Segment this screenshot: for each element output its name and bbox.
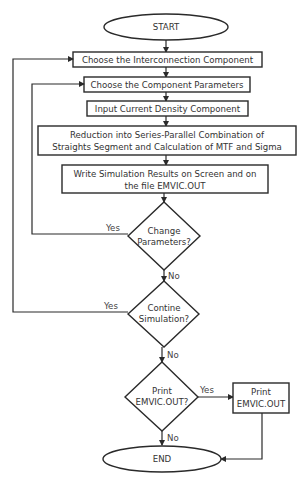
decision2-text-line2: Simulation? bbox=[139, 314, 189, 324]
step-choose-interconnection: Choose the Interconnection Component bbox=[73, 52, 262, 67]
print-box-text-line2: EMVIC.OUT bbox=[237, 399, 286, 409]
decision3-no-label: No bbox=[167, 433, 179, 443]
decision1-no-label: No bbox=[168, 271, 180, 281]
step4-text-line2: Straights Segment and Calculation of MTF… bbox=[52, 142, 282, 152]
flowchart-canvas: START Choose the Interconnection Compone… bbox=[0, 0, 308, 484]
step-input-current-density: Input Current Density Component bbox=[87, 101, 248, 116]
decision1-text-line1: Change bbox=[148, 226, 181, 236]
step-reduction: Reduction into Series-Parallel Combinati… bbox=[38, 126, 296, 155]
decision3-text-line1: Print bbox=[152, 386, 172, 396]
decision2-yes-label: Yes bbox=[103, 301, 118, 311]
step-print-output: Print EMVIC.OUT bbox=[233, 383, 289, 413]
step5-text-line2: the file EMVIC.OUT bbox=[125, 181, 207, 191]
step2-text: Choose the Component Parameters bbox=[90, 80, 244, 90]
print-box-text-line1: Print bbox=[251, 387, 271, 397]
decision1-text-line2: Parameters? bbox=[137, 237, 191, 247]
step-choose-parameters: Choose the Component Parameters bbox=[84, 77, 250, 92]
step3-text: Input Current Density Component bbox=[95, 104, 241, 114]
decision-continue-simulation: Contine Simulation? bbox=[128, 281, 199, 347]
step4-text-line1: Reduction into Series-Parallel Combinati… bbox=[70, 130, 265, 140]
decision-print-output: Print EMVIC.OUT? bbox=[125, 362, 198, 431]
decision2-no-label: No bbox=[167, 350, 179, 360]
decision-change-parameters: Change Parameters? bbox=[128, 202, 200, 270]
decision3-yes-label: Yes bbox=[199, 385, 214, 395]
step-write-results: Write Simulation Results on Screen and o… bbox=[62, 165, 268, 193]
decision2-text-line1: Contine bbox=[147, 303, 180, 313]
arrow-print-to-end bbox=[221, 413, 262, 459]
step5-text-line1: Write Simulation Results on Screen and o… bbox=[73, 169, 256, 179]
start-label: START bbox=[153, 22, 180, 32]
decision3-text-line2: EMVIC.OUT? bbox=[136, 397, 189, 407]
step1-text: Choose the Interconnection Component bbox=[82, 55, 254, 65]
end-label: END bbox=[153, 454, 172, 464]
end-terminal: END bbox=[103, 446, 221, 472]
start-terminal: START bbox=[104, 14, 228, 40]
decision1-yes-label: Yes bbox=[105, 223, 120, 233]
